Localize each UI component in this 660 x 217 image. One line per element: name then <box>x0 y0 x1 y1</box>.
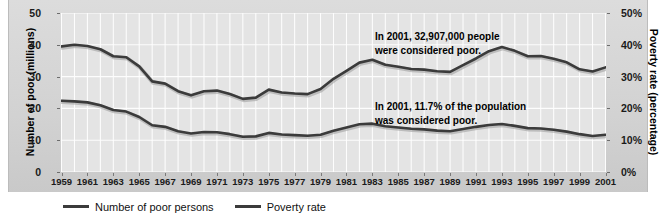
x-axis-tick-mark <box>321 173 322 176</box>
x-axis-tick-label: 1973 <box>232 177 253 187</box>
y-axis-left-tick-mark <box>57 140 60 141</box>
annotation-poor-count: In 2001, 32,907,000 people were consider… <box>375 30 500 57</box>
y-axis-right-title: Poverty rate (percentage) <box>648 17 660 167</box>
y-axis-right-tick-label: 40% <box>621 40 642 51</box>
y-axis-left-tick-label: 10 <box>29 135 41 146</box>
x-axis-tick-label: 1997 <box>543 177 564 187</box>
legend-line-swatch-icon <box>235 205 261 208</box>
legend-line-swatch-icon <box>63 205 89 208</box>
x-axis-tick-label: 1999 <box>569 177 590 187</box>
x-axis-tick-label: 1965 <box>129 177 150 187</box>
legend-item-poverty-rate: Poverty rate <box>235 201 326 213</box>
x-axis-tick-mark <box>580 173 581 176</box>
chart-panel: Number of poor (millions) Poverty rate (… <box>8 0 648 192</box>
x-axis-tick-mark <box>606 173 607 176</box>
x-axis-tick-mark <box>243 173 244 176</box>
x-axis-tick-mark <box>502 173 503 176</box>
x-axis-tick-label: 1959 <box>51 177 72 187</box>
y-axis-left-tick-label: 20 <box>29 103 41 114</box>
y-axis-right-tick-mark <box>607 77 610 78</box>
y-axis-left-tick-label: 0 <box>35 167 41 178</box>
x-axis-tick-label: 1985 <box>388 177 409 187</box>
x-axis-tick-label: 1995 <box>517 177 538 187</box>
x-axis-tick-label: 1971 <box>206 177 227 187</box>
x-axis-tick-mark <box>476 173 477 176</box>
x-axis-tick-mark <box>528 173 529 176</box>
y-axis-right-tick-mark <box>607 108 610 109</box>
y-axis-right-tick-label: 50% <box>621 8 642 19</box>
x-axis-tick-label: 1975 <box>258 177 279 187</box>
y-axis-left-tick-mark <box>57 108 60 109</box>
chart-legend: Number of poor persons Poverty rate <box>0 196 654 217</box>
y-axis-left-tick-mark <box>57 77 60 78</box>
y-axis-left-tick-label: 50 <box>29 8 41 19</box>
plot-svg <box>61 13 606 172</box>
x-axis-tick-mark <box>87 173 88 176</box>
x-axis-tick-mark <box>424 173 425 176</box>
x-axis-tick-mark <box>295 173 296 176</box>
y-axis-left-tick-label: 30 <box>29 72 41 83</box>
x-axis-tick-mark <box>62 173 63 176</box>
x-axis-tick-mark <box>398 173 399 176</box>
x-axis-tick-label: 1989 <box>439 177 460 187</box>
y-axis-right-tick-label: 20% <box>621 103 642 114</box>
x-axis-tick-label: 1991 <box>465 177 486 187</box>
legend-item-number-of-poor-persons: Number of poor persons <box>63 201 214 213</box>
y-axis-right-tick-label: 0% <box>621 167 636 178</box>
x-axis-tick-label: 1961 <box>77 177 98 187</box>
x-axis-tick-label: 1967 <box>155 177 176 187</box>
x-axis-tick-label: 1963 <box>103 177 124 187</box>
x-axis-tick-mark <box>165 173 166 176</box>
x-axis-tick-label: 1969 <box>180 177 201 187</box>
x-axis-tick-mark <box>139 173 140 176</box>
x-axis-tick-mark <box>113 173 114 176</box>
x-axis-tick-label: 1987 <box>414 177 435 187</box>
plot-area <box>61 13 606 172</box>
y-axis-left-tick-mark <box>57 45 60 46</box>
x-axis-tick-label: 1983 <box>362 177 383 187</box>
y-axis-right-tick-label: 10% <box>621 135 642 146</box>
x-axis-tick-mark <box>269 173 270 176</box>
x-axis-tick-mark <box>372 173 373 176</box>
y-axis-right-tick-mark <box>607 172 610 173</box>
x-axis-tick-label: 2001 <box>595 177 616 187</box>
y-axis-left-tick-label: 40 <box>29 40 41 51</box>
x-axis-tick-label: 1981 <box>336 177 357 187</box>
x-axis-tick-mark <box>346 173 347 176</box>
legend-label-number-of-poor-persons: Number of poor persons <box>95 201 214 213</box>
x-axis-tick-mark <box>217 173 218 176</box>
x-axis-tick-label: 1977 <box>284 177 305 187</box>
y-axis-left-tick-mark <box>57 13 60 14</box>
x-axis-tick-mark <box>450 173 451 176</box>
y-axis-right-tick-mark <box>607 140 610 141</box>
y-axis-right-tick-mark <box>607 45 610 46</box>
x-axis-tick-label: 1979 <box>310 177 331 187</box>
x-axis-tick-mark <box>554 173 555 176</box>
y-axis-right-tick-mark <box>607 13 610 14</box>
x-axis-tick-mark <box>191 173 192 176</box>
y-axis-left-tick-mark <box>57 172 60 173</box>
legend-label-poverty-rate: Poverty rate <box>267 201 326 213</box>
y-axis-right-tick-label: 30% <box>621 72 642 83</box>
x-axis-tick-label: 1993 <box>491 177 512 187</box>
annotation-poverty-rate: In 2001, 11.7% of the population was con… <box>375 100 526 127</box>
